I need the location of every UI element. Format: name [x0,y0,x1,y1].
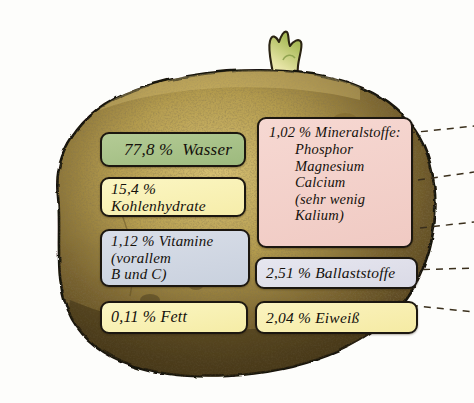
callout-fett: 0,11 % Fett [100,301,248,334]
potato-nutrition-diagram: 77,8 % Wasser 15,4 % Kohlenhydrate 1,12 … [0,0,474,403]
callout-mineralstoffe-line-6: Kalium) [269,207,403,223]
callout-vitamine-line-3: B und C) [111,266,239,283]
callout-eiweiss: 2,04 % Eiweiß [255,301,418,334]
callout-mineralstoffe-line-4: Calcium [269,174,403,190]
callout-mineralstoffe: 1,02 % Mineralstoffe: Phosphor Magnesium… [257,117,413,248]
callout-eiweiss-line-1: 2,04 % Eiweiß [266,309,407,327]
callout-ballaststoffe: 2,51 % Ballaststoffe [255,257,418,289]
callout-vitamine-line-2: (vorallem [111,250,239,267]
callout-wasser: 77,8 % Wasser [100,132,246,167]
callout-kohlenhydrate: 15,4 % Kohlenhydrate [100,177,246,217]
callout-mineralstoffe-line-2: Phosphor [269,141,403,157]
callout-mineralstoffe-line-5: (sehr wenig [269,191,403,207]
callout-vitamine: 1,12 % Vitamine (vorallem B und C) [100,229,250,287]
callout-wasser-line-1: 77,8 % Wasser [124,140,232,159]
callout-fett-line-1: 0,11 % Fett [111,308,237,326]
callout-mineralstoffe-line-3: Magnesium [269,158,403,174]
callout-vitamine-line-1: 1,12 % Vitamine [111,233,239,250]
callout-mineralstoffe-line-1: 1,02 % Mineralstoffe: [269,124,403,140]
leader-line-1 [408,126,474,133]
callout-ballaststoffe-line-1: 2,51 % Ballaststoffe [266,264,407,282]
callout-kohlenhydrate-line-2: Kohlenhydrate [111,197,235,215]
callout-kohlenhydrate-line-1: 15,4 % [111,180,235,198]
